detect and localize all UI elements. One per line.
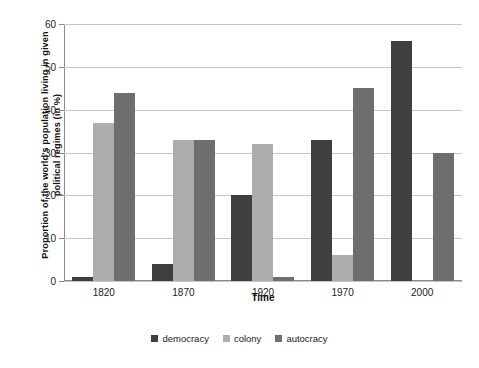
y-axis-tick-label: 50 xyxy=(45,61,56,72)
legend-swatch-icon xyxy=(275,335,282,342)
bar-autocracy xyxy=(194,140,215,281)
y-axis-tick-label: 20 xyxy=(45,190,56,201)
legend-item-colony[interactable]: colony xyxy=(223,333,261,344)
bars-layer xyxy=(64,24,462,281)
bar-group xyxy=(303,24,383,281)
bar-group xyxy=(64,24,144,281)
bar-colony xyxy=(173,140,194,281)
y-axis-tick-label: 60 xyxy=(45,19,56,30)
y-axis-tick-label: 0 xyxy=(50,276,56,287)
bar-autocracy xyxy=(273,277,294,281)
chart-legend: democracycolonyautocracy xyxy=(0,333,479,344)
legend-label: democracy xyxy=(162,333,208,344)
bar-colony xyxy=(93,123,114,281)
bar-democracy xyxy=(72,277,93,281)
y-axis-tick xyxy=(59,281,64,282)
x-axis-title: Time xyxy=(64,292,462,303)
y-axis-tick-label: 30 xyxy=(45,147,56,158)
bar-autocracy xyxy=(114,93,135,281)
bar-democracy xyxy=(231,195,252,281)
bar-group xyxy=(144,24,224,281)
bar-chart-figure: Proportion of the world's population liv… xyxy=(0,0,479,368)
bar-democracy xyxy=(391,41,412,281)
bar-autocracy xyxy=(353,88,374,281)
legend-label: autocracy xyxy=(286,333,327,344)
bar-autocracy xyxy=(433,153,454,282)
legend-item-autocracy[interactable]: autocracy xyxy=(275,333,327,344)
y-axis-tick-label: 10 xyxy=(45,233,56,244)
legend-swatch-icon xyxy=(223,335,230,342)
bar-group xyxy=(382,24,462,281)
bar-colony xyxy=(332,255,353,281)
bar-colony xyxy=(252,144,273,281)
bar-democracy xyxy=(152,264,173,281)
y-axis-tick-label: 40 xyxy=(45,104,56,115)
bar-group xyxy=(223,24,303,281)
plot-area: 0102030405060 18201870192019702000 xyxy=(64,24,462,281)
legend-swatch-icon xyxy=(151,335,158,342)
legend-item-democracy[interactable]: democracy xyxy=(151,333,208,344)
legend-label: colony xyxy=(234,333,261,344)
gridline xyxy=(64,281,462,282)
bar-democracy xyxy=(311,140,332,281)
